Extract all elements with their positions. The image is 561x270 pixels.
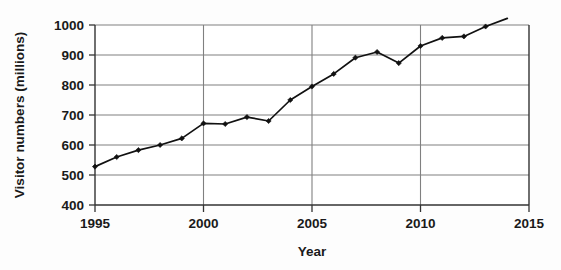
y-tick-label-800: 800 — [61, 78, 84, 93]
x-tick-label-2015: 2015 — [514, 216, 545, 231]
y-tick-label-600: 600 — [61, 138, 84, 153]
y-axis-title: Visitor numbers (millions) — [12, 32, 27, 198]
x-axis-title: Year — [298, 244, 327, 259]
y-tick-label-900: 900 — [61, 48, 84, 63]
y-tick-label-500: 500 — [61, 168, 84, 183]
y-tick-label-1000: 1000 — [54, 18, 84, 33]
x-tick-label-1995: 1995 — [80, 216, 111, 231]
visitor-numbers-line-chart: 1000 900 800 700 600 500 400 1995 2000 2… — [0, 0, 561, 270]
y-tick-label-400: 400 — [61, 198, 84, 213]
x-tick-label-2000: 2000 — [188, 216, 218, 231]
y-tick-label-700: 700 — [61, 108, 84, 123]
x-tick-label-2005: 2005 — [297, 216, 328, 231]
x-tick-label-2010: 2010 — [405, 216, 435, 231]
